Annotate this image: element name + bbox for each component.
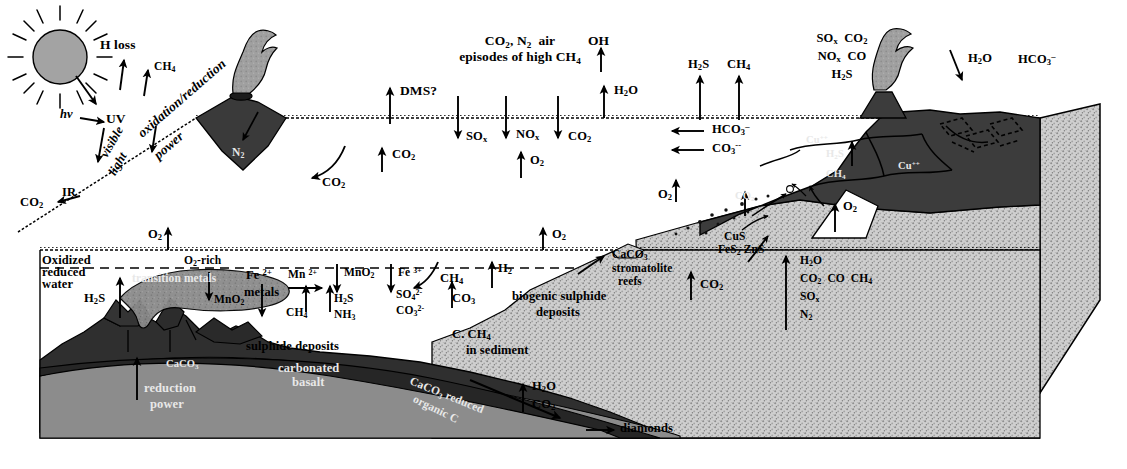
label-rain-h2o: H2O xyxy=(968,52,992,66)
label-h2-slope: H2 xyxy=(498,262,512,276)
label-oh: OH xyxy=(588,34,609,48)
label-mn2: Mn 2+ xyxy=(288,268,317,280)
label-caco3-vent: CaCO3 xyxy=(166,358,199,371)
label-so4: SO42- xyxy=(396,288,422,302)
sun-icon xyxy=(8,6,112,108)
label-sox-down: SOx xyxy=(466,130,487,144)
arrow-uv xyxy=(80,118,104,122)
label-outgas-h2o: H2O xyxy=(800,254,822,268)
label-biogenic-1: biogenic sulphide xyxy=(512,290,606,303)
arrow-ch4-up xyxy=(144,70,148,96)
label-slab-h2o: H2O xyxy=(532,380,556,394)
label-caco3-reef-2: stromatolite xyxy=(612,262,672,274)
label-co2-shelf-up: CO2 xyxy=(700,278,723,292)
label-o2-lower-left: O2 xyxy=(148,228,162,242)
label-ch4-hloss: CH4 xyxy=(154,60,175,74)
label-crust-h2s: H2S xyxy=(826,148,844,161)
label-cus: CuS xyxy=(724,230,745,242)
label-co2-ir: CO2 xyxy=(20,196,43,210)
label-ch4-up: CH4 xyxy=(727,58,750,72)
label-co2-down: CO2 xyxy=(568,130,591,144)
label-co2-up-mid: CO2 xyxy=(392,148,415,162)
label-fe2-metals: metals xyxy=(244,286,279,299)
label-volcano-emissions-1: SOx CO2 xyxy=(817,32,868,46)
label-volcano-emissions-3: H2S xyxy=(831,68,852,82)
label-h2s-lower: H2S xyxy=(334,292,354,306)
label-o2-shelf: O2 xyxy=(658,188,672,202)
label-hv: hv xyxy=(60,108,73,121)
label-co2-curl: CO2 xyxy=(322,176,345,190)
label-mno2-down-left: MnO2 xyxy=(214,293,245,307)
label-dms: DMS? xyxy=(400,84,437,98)
volcano-plume-right xyxy=(872,29,913,90)
label-ir: IR xyxy=(62,186,76,199)
arrow-h-loss xyxy=(120,60,124,90)
label-biogenic-2: deposits xyxy=(536,306,580,319)
label-c-ch4: C. CH4 xyxy=(452,328,491,342)
label-crust-cu-1: Cu++ xyxy=(806,134,828,145)
label-ch4-lower: CH4 xyxy=(286,306,307,320)
label-nh3: NH3 xyxy=(334,308,355,322)
label-co3-slope: CO3 xyxy=(452,292,475,306)
volcano-land-right xyxy=(860,29,913,118)
label-rain-hco3: HCO3– xyxy=(1018,52,1056,67)
label-reduction-2: power xyxy=(150,398,184,411)
label-co3-left: CO3-- xyxy=(712,141,741,156)
block-side-face xyxy=(1040,104,1100,393)
label-carbonated-1: carbonated xyxy=(278,362,339,375)
label-o2-rich: O2-rich xyxy=(184,254,221,268)
arrow-co2-curl xyxy=(312,146,345,178)
label-fe2: Fe 2+ xyxy=(246,268,272,282)
label-crust-cu-2: Cu++ xyxy=(898,160,920,171)
arrow-rain-h2o xyxy=(950,50,962,80)
label-outgas-cox: CO2 CO CH4 xyxy=(800,272,872,286)
label-h2s-vent: H2S xyxy=(84,292,105,306)
label-volcano-emissions-2: NOx CO xyxy=(818,50,867,64)
label-carbonated-2: basalt xyxy=(292,376,325,389)
label-hco3-left: HCO3– xyxy=(712,122,750,137)
label-outgas-sox: SOx xyxy=(800,290,820,304)
label-caco3-reef-1: CaCO3 xyxy=(612,248,648,262)
label-h2o-up: H2O xyxy=(614,84,638,98)
label-redox-3: water xyxy=(42,278,73,291)
label-co2-shelf: CO2 xyxy=(735,190,755,203)
label-crust-ch4: CH4 xyxy=(826,168,846,181)
label-nox-down: NOx xyxy=(516,128,539,142)
label-slab-co2: CO2 xyxy=(532,398,555,412)
label-island-n2: N2 xyxy=(232,146,244,160)
label-o2-up-mid: O2 xyxy=(530,154,544,168)
label-air-composition-1: CO2, N2 air xyxy=(485,34,555,50)
label-transition-metals: transition metals xyxy=(132,272,216,284)
label-o2-wedge: O2 xyxy=(843,200,857,214)
label-diamonds: diamonds xyxy=(620,422,673,435)
label-outgas-n2: N2 xyxy=(800,308,812,322)
label-ch4-slope: CH4 xyxy=(440,272,463,286)
label-in-sediment: in sediment xyxy=(466,344,529,357)
label-h-loss: H loss xyxy=(100,38,135,52)
volcano-plume-left xyxy=(233,30,277,93)
label-air-composition-2: episodes of high CH4 xyxy=(459,50,581,66)
label-reduction-1: reduction xyxy=(144,382,196,395)
label-co3-lower: CO32- xyxy=(396,304,424,318)
label-o2-lower-right: O2 xyxy=(552,228,566,242)
label-mno2-down-right: MnO2 xyxy=(344,266,375,280)
label-fe3: Fe 3+ xyxy=(398,266,422,278)
label-sulphide-deposits: sulphide deposits xyxy=(246,340,339,353)
diagram-canvas: hv UV visible light IR CO2 H loss CH4 ox… xyxy=(0,0,1127,469)
label-caco3-reef-3: reefs xyxy=(618,275,642,287)
label-fes2-zns: FeS2 ZnS xyxy=(718,243,765,257)
label-h2s-up: H2S xyxy=(688,58,709,72)
